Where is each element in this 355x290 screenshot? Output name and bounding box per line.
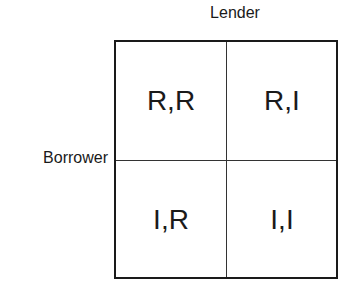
matrix-cell-top-right: R,I <box>227 42 337 159</box>
payoff-matrix: R,R R,I I,R I,I <box>114 40 338 279</box>
matrix-cell-bottom-right: I,I <box>227 161 337 278</box>
row-label-borrower: Borrower <box>13 148 108 168</box>
matrix-cell-bottom-left: I,R <box>116 161 226 278</box>
column-label-lender: Lender <box>180 3 290 23</box>
matrix-cell-top-left: R,R <box>116 42 226 159</box>
